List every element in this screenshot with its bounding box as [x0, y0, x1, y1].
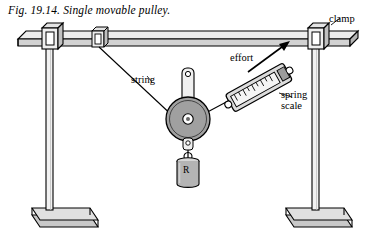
label-load-r: R [183, 165, 189, 175]
figure-caption: Fig. 19.14. Single movable pulley. [8, 4, 170, 16]
horizontal-bar [18, 31, 358, 46]
label-string: string [131, 74, 155, 85]
movable-pulley [166, 68, 210, 160]
figure-container: Fig. 19.14. Single movable pulley. [0, 0, 375, 239]
label-clamp: clamp [329, 13, 355, 24]
label-scale: scale [281, 100, 302, 111]
label-effort: effort [230, 52, 253, 63]
string-anchor-clamp [92, 27, 108, 47]
label-spring: spring [281, 89, 307, 100]
left-clamp [42, 23, 63, 49]
pulley-diagram [0, 0, 375, 239]
left-stand [32, 42, 98, 227]
right-clamp [308, 23, 329, 49]
right-stand [286, 42, 352, 227]
